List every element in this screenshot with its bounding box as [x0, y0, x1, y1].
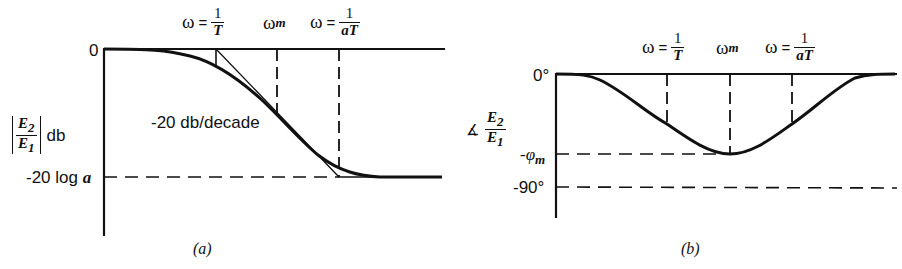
panel-a-tick-zero: 0: [89, 42, 98, 59]
fraction: E2 E1: [485, 110, 506, 148]
panel-a-label-wm: ωm: [263, 12, 286, 34]
panel-a-slope-annotation: -20 db/decade: [151, 114, 260, 131]
equals-sign: =: [782, 39, 791, 56]
omega-symbol: ω: [310, 11, 323, 33]
panel-a-y-label: E2 E1 db: [12, 116, 65, 154]
fraction: 1 aT: [339, 6, 360, 39]
panel-a-tick-min: -20 log a: [26, 169, 91, 186]
omega-symbol: ω: [182, 11, 195, 33]
panel-a-label-1-over-T: ω = 1 T: [182, 6, 224, 39]
panel-a-label-1-over-aT: ω = 1 aT: [310, 6, 360, 39]
equals-sign: =: [327, 14, 336, 31]
panel-b-phase-curve: [556, 74, 895, 154]
panel-b-label-1-over-aT: ω = 1 aT: [765, 31, 815, 64]
panel-b-tick-phi-m: -φm: [520, 146, 545, 166]
equals-sign: =: [199, 14, 208, 31]
absolute-value-bars: E2 E1: [12, 116, 41, 154]
fraction: E2 E1: [16, 116, 37, 154]
panel-b-label-wm: ωm: [716, 37, 739, 59]
fraction: 1 T: [671, 31, 684, 64]
panel-b-label-1-over-T: ω = 1 T: [642, 31, 684, 64]
panel-b-plot: [556, 73, 897, 218]
angle-icon: ∡: [466, 122, 479, 137]
panel-a-caption: (a): [193, 240, 212, 258]
panel-b-caption: (b): [681, 240, 700, 258]
fraction: 1 aT: [794, 31, 815, 64]
panel-a-plot: [104, 48, 445, 236]
equals-sign: =: [659, 39, 668, 56]
fraction: 1 T: [211, 6, 224, 39]
panel-b-tick-minus-90: -90°: [513, 179, 544, 196]
panel-b-minus-90-dashed: [556, 187, 897, 188]
omega-symbol: ω: [765, 36, 778, 58]
omega-symbol: ω: [642, 36, 655, 58]
panel-b-y-label: ∡ E2 E1: [466, 110, 506, 148]
panel-b-tick-zero: 0°: [533, 67, 549, 84]
